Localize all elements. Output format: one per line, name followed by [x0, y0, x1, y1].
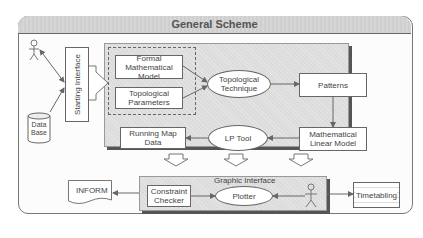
actor-icon: [29, 40, 39, 60]
actor-icon: [305, 184, 317, 207]
connectors: [0, 0, 423, 238]
down-arrow-icon: [289, 154, 313, 166]
down-arrow-icon: [224, 154, 248, 166]
down-arrow-icon: [164, 154, 188, 166]
